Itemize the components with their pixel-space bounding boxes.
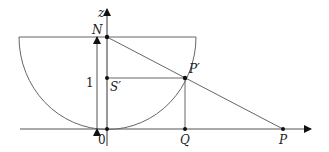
point-origin: [105, 127, 109, 131]
point-p-prime: [183, 76, 187, 80]
p-prime-label: P′: [189, 63, 200, 75]
origin-label: 0: [98, 134, 106, 146]
s-prime-label: S′: [110, 81, 121, 93]
point-q: [183, 127, 187, 131]
point-n: [105, 35, 109, 39]
north-label: N: [92, 24, 103, 36]
z-axis-label: z: [98, 7, 104, 19]
unit-length-label: 1: [86, 77, 94, 89]
point-p: [281, 127, 285, 131]
p-label: P: [279, 134, 287, 146]
point-s-prime: [105, 76, 109, 80]
diagram-canvas: [0, 0, 329, 152]
q-label: Q: [180, 134, 190, 146]
